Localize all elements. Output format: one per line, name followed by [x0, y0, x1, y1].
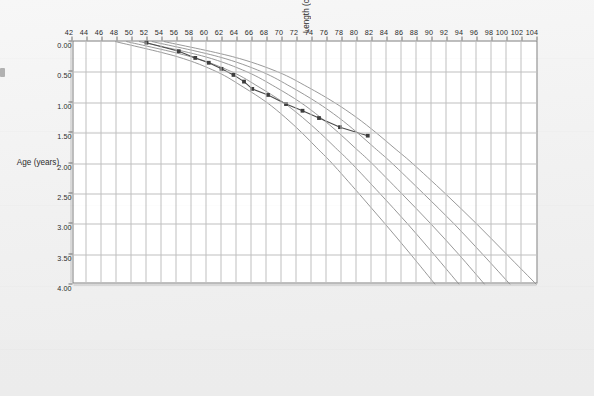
gridline-age	[73, 163, 536, 164]
gridline-age	[73, 223, 536, 224]
scan-artifact	[0, 131, 594, 132]
growth-chart: 1041021009896949290888684828078767472706…	[49, 0, 545, 291]
data-point-marker	[365, 133, 369, 137]
gridline-length	[415, 41, 416, 282]
tick-label-length: 42	[43, 28, 73, 37]
page-edge-mark	[0, 68, 5, 77]
scan-artifact	[0, 205, 594, 206]
gridline-age	[73, 193, 536, 194]
data-point-marker	[242, 79, 246, 83]
gridline-length	[235, 41, 236, 282]
gridline-length	[385, 41, 386, 282]
gridline-length	[325, 41, 326, 282]
scanned-page: 1041021009896949290888684828078767472706…	[0, 0, 594, 396]
gridline-age	[73, 132, 536, 133]
gridline-length	[460, 41, 461, 282]
data-point-marker	[317, 116, 321, 120]
tick-label-age: 3.00	[54, 222, 74, 231]
gridline-length	[175, 41, 176, 282]
tick-label-age: 2.50	[54, 192, 74, 201]
gridline-length	[205, 41, 206, 282]
gridline-length	[280, 41, 281, 282]
gridline-length	[295, 41, 296, 282]
gridline-length	[130, 41, 131, 282]
gridline-length	[160, 41, 161, 282]
gridline-length	[220, 41, 221, 282]
tick-label-age: 0.50	[54, 70, 74, 79]
gridline-length	[430, 41, 431, 282]
gridline-length	[520, 41, 521, 282]
gridline-length	[370, 41, 371, 282]
gridline-length	[340, 41, 341, 282]
gridline-length	[265, 41, 266, 282]
data-point-marker	[176, 49, 180, 53]
gridline-length	[145, 41, 146, 282]
axis-title-age: Age (years)	[8, 157, 68, 166]
gridline-length	[355, 41, 356, 282]
gridline-length	[445, 41, 446, 282]
gridline-length	[490, 41, 491, 282]
tick-label-age: 4.00	[54, 283, 74, 292]
gridline-age	[73, 254, 536, 255]
data-point-marker	[231, 73, 235, 77]
gridline-length	[505, 41, 506, 282]
data-point-marker	[206, 60, 210, 64]
tick-label-age: 1.00	[54, 101, 74, 110]
gridline-length	[250, 41, 251, 282]
gridline-length	[85, 41, 86, 282]
gridline-age	[73, 71, 536, 72]
gridline-length	[190, 41, 191, 282]
gridline-length	[400, 41, 401, 282]
gridline-length	[475, 41, 476, 282]
gridline-length	[115, 41, 116, 282]
gridline-age	[73, 102, 536, 103]
patient-data-line	[146, 42, 367, 135]
gridline-length	[100, 41, 101, 282]
tick-label-age: 3.50	[54, 253, 74, 262]
gridline-age	[73, 284, 536, 285]
scan-artifact	[0, 349, 594, 350]
scan-artifact	[0, 286, 594, 287]
scan-artifact	[0, 58, 594, 59]
gridline-length	[310, 41, 311, 282]
data-point-marker	[300, 108, 304, 112]
axis-title-length: Length (cm)	[302, 0, 311, 41]
tick-label-age: 0.00	[54, 40, 74, 49]
tick-label-age: 1.50	[54, 131, 74, 140]
plot-area	[72, 40, 537, 283]
